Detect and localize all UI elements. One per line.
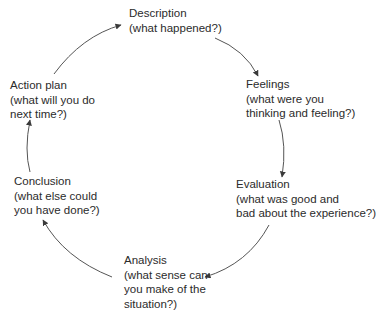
stage-title: Analysis [124, 253, 208, 268]
arrow-analysis-to-conclusion [43, 220, 112, 277]
stage-prompt: bad about the experience?) [236, 206, 376, 221]
stage-evaluation: Evaluation (what was good and bad about … [236, 177, 376, 221]
arrow-conclusion-to-action [27, 120, 30, 172]
stage-prompt: you make of the [124, 282, 208, 297]
stage-prompt: (what else could [14, 189, 100, 204]
stage-prompt: thinking and feeling?) [246, 106, 355, 121]
stage-prompt: (what will you do [10, 93, 95, 108]
stage-title: Evaluation [236, 177, 376, 192]
stage-feelings: Feelings (what were you thinking and fee… [246, 77, 355, 121]
stage-prompt: you have done?) [14, 203, 100, 218]
stage-prompt: (what were you [246, 92, 355, 107]
arrow-feelings-to-evaluation [279, 120, 284, 177]
stage-title: Action plan [10, 78, 95, 93]
stage-prompt: situation?) [124, 297, 208, 312]
arrow-evaluation-to-analysis [205, 225, 269, 277]
stage-title: Feelings [246, 77, 355, 92]
arrow-action-to-description [54, 25, 121, 74]
stage-description: Description (what happened?) [129, 6, 222, 35]
stage-action-plan: Action plan (what will you do next time?… [10, 78, 95, 122]
stage-prompt: (what was good and [236, 192, 376, 207]
stage-prompt: next time?) [10, 107, 95, 122]
arrow-description-to-feelings [215, 38, 258, 76]
stage-prompt: (what sense can [124, 268, 208, 283]
stage-conclusion: Conclusion (what else could you have don… [14, 174, 100, 218]
stage-analysis: Analysis (what sense can you make of the… [124, 253, 208, 311]
stage-prompt: (what happened?) [129, 21, 222, 36]
stage-title: Description [129, 6, 222, 21]
stage-title: Conclusion [14, 174, 100, 189]
